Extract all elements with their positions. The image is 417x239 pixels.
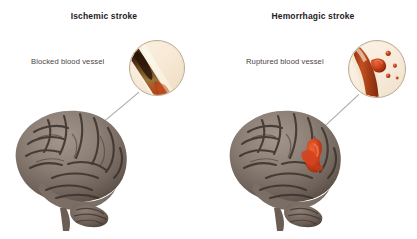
blocked-vessel-illustration — [130, 41, 184, 95]
brain-ischemic — [8, 104, 138, 232]
blood-droplet — [386, 51, 391, 56]
label-blocked-blood-vessel: Blocked blood vessel — [31, 57, 104, 66]
stroke-comparison-figure: Ischemic stroke Blocked blood vessel Hem… — [0, 0, 417, 239]
blood-droplet — [393, 64, 397, 68]
blood-droplet — [386, 73, 390, 77]
label-ruptured-blood-vessel: Ruptured blood vessel — [246, 57, 324, 66]
blood-droplet — [396, 77, 399, 80]
magnifier-ruptured-vessel — [348, 40, 406, 98]
ruptured-vessel-illustration — [349, 41, 405, 97]
panel-title-ischemic: Ischemic stroke — [0, 11, 208, 21]
brain-lateral-illustration — [222, 104, 352, 232]
brain-hemorrhagic — [222, 104, 352, 232]
magnifier-blocked-vessel — [129, 40, 185, 96]
panel-title-hemorrhagic: Hemorrhagic stroke — [209, 11, 417, 21]
brain-lateral-illustration — [8, 104, 138, 232]
